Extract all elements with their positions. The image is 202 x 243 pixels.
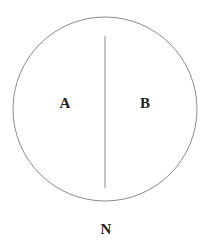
diagram-canvas: A B N: [0, 0, 202, 243]
label-region-a: A: [60, 95, 71, 111]
label-region-b: B: [140, 95, 150, 111]
label-bottom-n: N: [101, 221, 112, 237]
